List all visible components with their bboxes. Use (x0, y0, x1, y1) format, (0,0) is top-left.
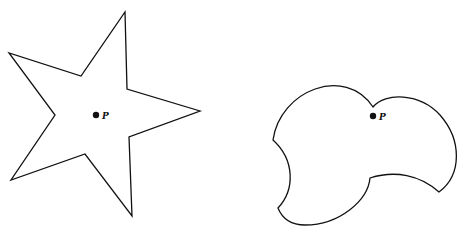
point-p-marker-2 (370, 113, 376, 119)
point-p-marker (93, 112, 99, 118)
curved-region-outline (273, 86, 456, 225)
point-p-label: P (101, 111, 109, 121)
curved-region-figure: P (273, 86, 456, 225)
point-p-label-2: P (378, 112, 386, 122)
star-figure: P (9, 12, 200, 216)
diagram-canvas: P P (0, 0, 467, 232)
